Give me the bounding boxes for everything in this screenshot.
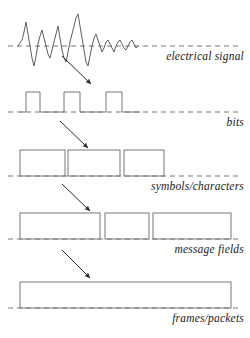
protocol-abstraction-diagram: electrical signal bits symbols/character…	[0, 0, 250, 338]
symbol-rect	[68, 150, 120, 176]
tier-label-message-fields: message fields	[174, 243, 244, 255]
baselines-group	[8, 46, 242, 308]
message-field-rect	[20, 213, 100, 239]
symbol-rect	[124, 150, 164, 176]
arrow-bits-to-symbols	[60, 121, 88, 148]
arrow-message-to-frames	[62, 250, 90, 278]
symbols-rects	[20, 150, 164, 176]
tier-label-electrical-signal: electrical signal	[166, 50, 244, 62]
tier-label-symbols-characters: symbols/characters	[151, 180, 244, 192]
message-field-rect	[105, 213, 149, 239]
arrow-symbols-to-message	[62, 184, 90, 211]
frame-packet-rect	[20, 282, 231, 308]
frames-rects	[20, 282, 231, 308]
analog-waveform	[18, 14, 138, 66]
message-field-rect	[153, 213, 231, 239]
tier-label-frames-packets: frames/packets	[172, 312, 244, 324]
digital-square-wave	[20, 92, 140, 112]
tier-label-bits: bits	[227, 116, 244, 128]
arrow-signal-to-bits	[62, 56, 91, 84]
message-rects	[20, 213, 231, 239]
symbol-rect	[20, 150, 65, 176]
